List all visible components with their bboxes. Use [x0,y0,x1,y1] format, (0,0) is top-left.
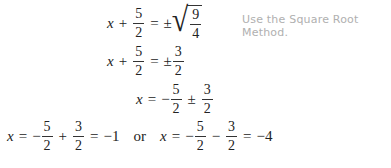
variable-x: x [160,128,167,145]
fraction: 5 2 [171,83,182,116]
radical-icon: √ [172,2,188,43]
fraction: 9 4 [190,8,201,41]
equals-sign: = [148,91,156,108]
variable-x: x [7,128,14,145]
numerator: 5 [171,83,182,100]
fraction: 3 2 [226,120,237,153]
denominator: 2 [226,137,237,153]
fraction: 5 2 [133,7,144,40]
fraction: 5 2 [195,120,206,153]
equation-step-2: x + 5 2 = ± 3 2 [107,44,185,78]
denominator: 2 [133,24,144,40]
plus-minus-sign: ± [188,91,196,108]
numerator: 3 [173,45,184,62]
numerator: 9 [190,8,201,25]
denominator: 2 [42,137,53,153]
equals-sign: = [172,128,180,145]
square-root: √ 9 4 [172,5,202,41]
variable-x: x [107,53,114,70]
fraction: 5 2 [42,120,53,153]
denominator: 2 [133,62,144,78]
plus-operator: + [59,128,67,145]
plus-minus-sign: ± [164,53,172,70]
denominator: 4 [190,25,201,41]
minus-sign: − [32,128,40,145]
minus-sign: − [161,91,169,108]
equation-step-3: x = − 5 2 ± 3 2 [136,82,214,116]
variable-x: x [107,15,114,32]
equals-sign: = [150,15,158,32]
fraction: 5 2 [133,45,144,78]
denominator: 2 [195,137,206,153]
or-connector: or [134,128,147,145]
method-note: Use the Square Root Method. [242,13,391,39]
denominator: 2 [202,100,213,116]
numerator: 3 [202,83,213,100]
denominator: 2 [173,62,184,78]
numerator: 5 [133,7,144,24]
solution-value: −4 [257,128,273,145]
equals-sign: = [243,128,251,145]
denominator: 2 [171,100,182,116]
numerator: 3 [73,120,84,137]
equals-sign: = [90,128,98,145]
solution-value: −1 [104,128,120,145]
fraction: 3 2 [173,45,184,78]
plus-minus-sign: ± [164,15,172,32]
plus-operator: + [119,15,127,32]
minus-sign: − [185,128,193,145]
equals-sign: = [19,128,27,145]
variable-x: x [136,91,143,108]
numerator: 5 [42,120,53,137]
fraction: 3 2 [73,120,84,153]
minus-operator: − [212,128,220,145]
numerator: 5 [195,120,206,137]
fraction: 3 2 [202,83,213,116]
plus-operator: + [119,53,127,70]
equation-step-1: x + 5 2 = ± √ 9 4 [107,5,202,41]
equation-step-4: x = − 5 2 + 3 2 = −1 or x = − 5 2 − 3 2 … [7,119,273,153]
denominator: 2 [73,137,84,153]
numerator: 5 [133,45,144,62]
equals-sign: = [150,53,158,70]
numerator: 3 [226,120,237,137]
radicand: 9 4 [187,5,202,41]
